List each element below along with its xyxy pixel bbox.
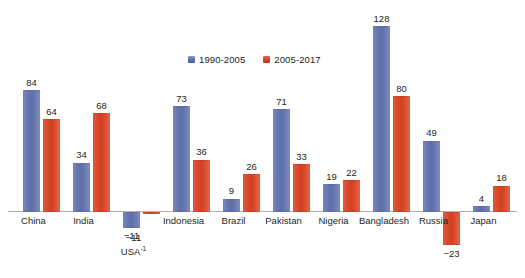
bar-bangladesh-1990-2005	[373, 26, 390, 212]
bar-china-1990-2005	[23, 90, 40, 212]
bar-indonesia-1990-2005	[173, 106, 190, 212]
value-china-1990-2005: 84	[23, 78, 40, 88]
value-india-1990-2005: 34	[73, 150, 90, 160]
bar-brazil-1990-2005	[223, 199, 240, 212]
bar-japan-1990-2005	[473, 206, 490, 212]
x-tick-label-indonesia: Indonesia	[158, 215, 209, 226]
value-nigeria-1990-2005: 19	[323, 172, 340, 182]
bar-group-russia: 49 −23	[420, 8, 463, 212]
x-tick-text-china: China	[21, 215, 46, 226]
value-bangladesh-1990-2005: 128	[373, 14, 390, 24]
bar-group-china: 84 64	[20, 8, 63, 212]
value-india-2005-2017: 68	[93, 101, 110, 111]
x-tick-label-russia: Russia	[408, 215, 459, 226]
plot-area: 84 64 34 68 −11 73 36	[8, 8, 517, 212]
value-usa-1990-2005-label: −11	[108, 232, 159, 243]
x-tick-text-pakistan: Pakistan	[265, 215, 301, 226]
value-japan-2005-2017: 18	[493, 173, 510, 183]
value-bangladesh-2005-2017: 80	[393, 84, 410, 94]
bar-bangladesh-2005-2017	[393, 96, 410, 212]
x-tick-text-russia: Russia	[419, 215, 448, 226]
bar-nigeria-2005-2017	[343, 180, 360, 212]
bar-usa-2005-2017	[143, 212, 160, 214]
bar-group-india: 34 68	[70, 8, 113, 212]
bar-pakistan-1990-2005	[273, 109, 290, 212]
bar-chart: 1990-2005 2005-2017 84 64 34 68	[0, 0, 525, 278]
x-tick-label-brazil: Brazil	[208, 215, 259, 226]
x-tick-text-brazil: Brazil	[222, 215, 246, 226]
bar-group-usa: −11	[120, 8, 163, 212]
bar-group-japan: 4 18	[470, 8, 513, 212]
bar-china-2005-2017	[43, 119, 60, 212]
bar-group-brazil: 9 26	[220, 8, 263, 212]
x-tick-label-usa: −11 USA-1	[108, 232, 159, 257]
x-tick-label-nigeria: Nigeria	[308, 215, 359, 226]
bar-group-pakistan: 71 33	[270, 8, 313, 212]
bar-brazil-2005-2017	[243, 174, 260, 212]
value-pakistan-1990-2005: 71	[273, 97, 290, 107]
x-tick-label-india: India	[58, 215, 109, 226]
value-pakistan-2005-2017: 33	[293, 152, 310, 162]
value-russia-1990-2005: 49	[423, 128, 440, 138]
bar-usa-1990-2005	[123, 212, 140, 228]
x-tick-label-pakistan: Pakistan	[258, 215, 309, 226]
value-indonesia-2005-2017: 36	[193, 147, 210, 157]
bar-group-indonesia: 73 36	[170, 8, 213, 212]
bar-nigeria-1990-2005	[323, 184, 340, 212]
x-tick-text-bangladesh: Bangladesh	[359, 215, 409, 226]
value-china-2005-2017: 64	[43, 107, 60, 117]
x-tick-label-china: China	[8, 215, 59, 226]
bar-group-nigeria: 19 22	[320, 8, 363, 212]
x-tick-label-bangladesh: Bangladesh	[355, 215, 413, 226]
x-tick-text-india: India	[73, 215, 94, 226]
bar-group-bangladesh: 128 80	[370, 8, 413, 212]
value-indonesia-1990-2005: 73	[173, 94, 190, 104]
x-tick-text-japan: Japan	[471, 215, 497, 226]
usa-footnote-marker: -1	[140, 245, 146, 252]
x-tick-text-indonesia: Indonesia	[163, 215, 204, 226]
bar-india-2005-2017	[93, 113, 110, 212]
value-nigeria-2005-2017: 22	[343, 168, 360, 178]
value-japan-1990-2005: 4	[473, 194, 490, 204]
bar-pakistan-2005-2017	[293, 164, 310, 212]
x-tick-text-nigeria: Nigeria	[318, 215, 348, 226]
value-brazil-2005-2017: 26	[243, 162, 260, 172]
x-tick-label-japan: Japan	[458, 215, 509, 226]
x-tick-text-usa: USA-1	[108, 243, 159, 257]
bar-japan-2005-2017	[493, 186, 510, 212]
value-brazil-1990-2005: 9	[223, 186, 240, 196]
bar-india-1990-2005	[73, 163, 90, 212]
bar-indonesia-2005-2017	[193, 160, 210, 212]
value-russia-2005-2017: −23	[443, 249, 460, 259]
bar-russia-1990-2005	[423, 141, 440, 212]
